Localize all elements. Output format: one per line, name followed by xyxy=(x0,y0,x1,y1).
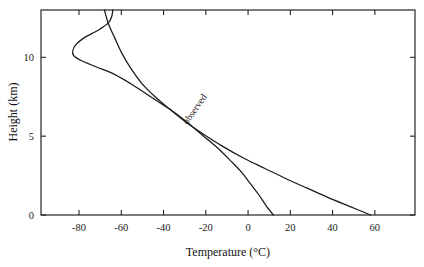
y-tick-label: 10 xyxy=(24,52,35,63)
data-curves xyxy=(72,10,370,215)
y-axis-ticks-left xyxy=(41,57,46,215)
y-tick-label: 5 xyxy=(29,131,34,142)
chart-canvas: -80-60-40-200204060 0510 observed Temper… xyxy=(0,0,424,267)
plot-frame xyxy=(41,10,415,215)
x-tick-label: -40 xyxy=(157,222,171,233)
x-tick-label: 60 xyxy=(370,222,381,233)
y-axis-tick-labels: 0510 xyxy=(24,52,35,221)
x-tick-label: -20 xyxy=(199,222,213,233)
x-axis-ticks-top xyxy=(79,10,375,15)
curve-annotations: observed xyxy=(181,92,209,126)
temperature-height-profile-chart: -80-60-40-200204060 0510 observed Temper… xyxy=(0,0,424,267)
y-axis-title: Height (km) xyxy=(6,83,20,142)
annotation-observed: observed xyxy=(181,92,209,126)
x-tick-label: -60 xyxy=(114,222,128,233)
x-axis-title: Temperature (°C) xyxy=(186,245,270,259)
x-axis-tick-labels: -80-60-40-200204060 xyxy=(72,222,380,233)
x-tick-label: -80 xyxy=(72,222,86,233)
curve-adiabatic xyxy=(104,10,370,215)
y-axis-ticks-right xyxy=(410,57,415,215)
x-axis-ticks-bottom xyxy=(79,210,375,215)
x-tick-label: 40 xyxy=(327,222,338,233)
x-tick-label: 20 xyxy=(285,222,296,233)
y-tick-label: 0 xyxy=(29,210,34,221)
x-tick-label: 0 xyxy=(245,222,250,233)
